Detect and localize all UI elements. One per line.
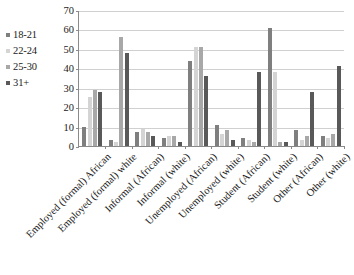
bar xyxy=(98,92,102,146)
bar xyxy=(241,138,245,146)
y-axis-tick-label: 20 xyxy=(64,103,75,114)
bar xyxy=(215,125,219,146)
bar-chart-figure: 18-2122-2425-3031+ 010203040506070 Emplo… xyxy=(0,0,354,275)
bar xyxy=(204,76,208,146)
bar xyxy=(125,53,129,146)
legend-item-22-24: 22-24 xyxy=(6,43,58,59)
legend-item-label: 22-24 xyxy=(13,46,37,57)
bar xyxy=(141,129,145,146)
bar-groups xyxy=(79,11,344,146)
bar xyxy=(135,132,139,146)
bar xyxy=(162,138,166,146)
bar xyxy=(82,127,86,146)
bar xyxy=(321,136,325,146)
bar-group xyxy=(106,11,133,146)
bar xyxy=(109,140,113,146)
legend-item-25-30: 25-30 xyxy=(6,59,58,75)
legend-item-18-21: 18-21 xyxy=(6,27,58,43)
legend-item-label: 25-30 xyxy=(13,62,37,73)
bar xyxy=(151,136,155,146)
legend-swatch-icon xyxy=(6,33,10,37)
legend-item-label: 31+ xyxy=(13,78,29,89)
bar xyxy=(300,140,304,146)
bar xyxy=(247,140,251,146)
bar xyxy=(278,142,282,146)
y-axis-tick-label: 70 xyxy=(64,6,75,17)
bar xyxy=(294,130,298,146)
y-axis-tick-label: 40 xyxy=(64,64,75,75)
bar-group xyxy=(212,11,239,146)
bar xyxy=(231,140,235,146)
bar xyxy=(119,37,123,146)
bar xyxy=(225,130,229,146)
bar xyxy=(194,47,198,146)
y-axis-tick-label: 30 xyxy=(64,83,75,94)
bar-group xyxy=(79,11,106,146)
bar-group xyxy=(318,11,345,146)
bar xyxy=(114,142,118,146)
x-axis-labels: Employed (formal) AfricanEmployed (forma… xyxy=(78,147,344,275)
bar xyxy=(220,134,224,146)
legend-swatch-icon xyxy=(6,49,10,53)
legend-swatch-icon xyxy=(6,65,10,69)
bar-group xyxy=(132,11,159,146)
bar xyxy=(167,136,171,146)
legend-item-31plus: 31+ xyxy=(6,75,58,91)
bar xyxy=(188,61,192,146)
y-axis-tick-label: 0 xyxy=(69,142,74,153)
bar-group xyxy=(291,11,318,146)
bar-group xyxy=(159,11,186,146)
legend-item-label: 18-21 xyxy=(13,30,37,41)
bar xyxy=(337,66,341,146)
y-axis-tick-label: 50 xyxy=(64,45,75,56)
bar xyxy=(199,47,203,146)
plot-area: 010203040506070 xyxy=(78,11,344,147)
bar xyxy=(252,142,256,146)
bar-group xyxy=(185,11,212,146)
y-axis-tick-label: 10 xyxy=(64,122,75,133)
bar xyxy=(257,72,261,146)
bar xyxy=(326,138,330,146)
chart-legend: 18-2122-2425-3031+ xyxy=(6,27,58,91)
bar xyxy=(93,90,97,146)
legend-swatch-icon xyxy=(6,81,10,85)
bar xyxy=(310,92,314,146)
bar xyxy=(331,134,335,146)
bar xyxy=(305,136,309,146)
bar-group xyxy=(265,11,292,146)
bar xyxy=(273,72,277,146)
bar xyxy=(284,142,288,146)
y-axis-tick-label: 60 xyxy=(64,25,75,36)
bar-group xyxy=(238,11,265,146)
bar xyxy=(172,136,176,146)
bar xyxy=(268,28,272,147)
bar xyxy=(146,132,150,146)
bar xyxy=(88,97,92,146)
bar xyxy=(178,142,182,146)
